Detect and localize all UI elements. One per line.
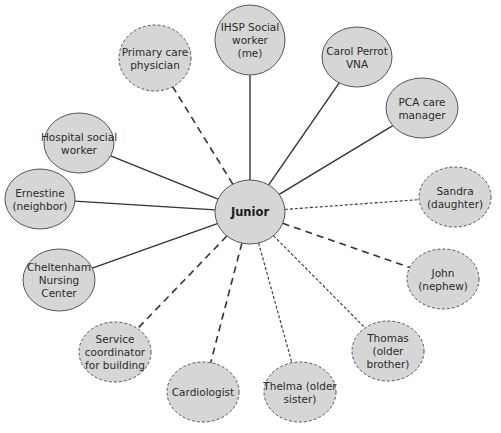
node-label-line: John — [431, 267, 455, 279]
node-hospital: Hospital socialworker — [41, 113, 117, 173]
node-label-line: PCA care — [399, 96, 446, 108]
center-node-label: Junior — [230, 205, 269, 219]
node-label-line: brother) — [367, 358, 410, 370]
node-label-line: Sandra — [436, 185, 473, 197]
node-label-line: (older — [373, 345, 405, 357]
node-label-line: Thomas — [366, 332, 409, 344]
node-ernestine: Ernestine(neighbor) — [5, 169, 75, 229]
link-primary-care — [173, 87, 233, 184]
node-pca: PCA caremanager — [386, 78, 458, 138]
node-label-line: (me) — [238, 47, 263, 59]
node-label-line: Service — [96, 333, 135, 345]
node-service-coordinator: Servicecoordinatorfor building — [79, 322, 151, 382]
link-cheltenham — [92, 224, 217, 269]
center-node-junior: Junior — [215, 180, 285, 244]
node-label-line: (neighbor) — [13, 200, 68, 212]
node-label-line: IHSP Social — [221, 21, 279, 33]
link-pca — [279, 126, 393, 195]
node-primary-care: Primary carephysician — [119, 25, 191, 91]
node-label-line: Ernestine — [15, 187, 65, 199]
node-label-line: manager — [398, 109, 446, 121]
node-label-line: Cheltenham — [27, 261, 91, 273]
node-label-line: (daughter) — [427, 198, 483, 210]
node-label-line: for building — [85, 359, 145, 371]
node-label-line: Primary care — [122, 46, 189, 58]
node-label-line: (nephew) — [418, 280, 468, 292]
node-thomas: Thomas(olderbrother) — [352, 321, 424, 381]
node-label-line: Hospital social — [41, 131, 117, 143]
node-cheltenham: CheltenhamNursingCenter — [23, 249, 95, 311]
node-label-line: Cardiologist — [172, 386, 234, 398]
node-label-line: worker — [61, 144, 97, 156]
node-label-line: coordinator — [85, 346, 146, 358]
node-label-line: worker — [232, 34, 268, 46]
link-hospital — [111, 156, 218, 199]
node-label-line: sister) — [284, 393, 317, 405]
node-label-line: Carol Perrot — [326, 45, 388, 57]
link-thomas — [274, 236, 366, 328]
node-john: John(nephew) — [407, 249, 479, 309]
node-cardiologist: Cardiologist — [167, 362, 239, 422]
node-label-line: Nursing — [39, 274, 80, 286]
link-cardiologist — [211, 243, 242, 363]
node-label-line: Center — [41, 287, 77, 299]
node-ihsp: IHSP Socialworker(me) — [215, 5, 285, 75]
node-label-line: physician — [130, 59, 180, 71]
link-john — [283, 223, 410, 267]
ecomap-diagram: IHSP Socialworker(me)Primary carephysici… — [0, 0, 501, 433]
link-thelma — [259, 243, 292, 363]
node-sandra: Sandra(daughter) — [419, 167, 491, 227]
node-carol: Carol PerrotVNA — [322, 27, 392, 87]
link-sandra — [285, 200, 419, 210]
link-ernestine — [75, 201, 215, 210]
node-thelma: Thelma (oldersister) — [262, 362, 337, 422]
link-carol — [269, 83, 339, 185]
node-label-line: Thelma (older — [262, 380, 337, 392]
link-service-coordinator — [138, 236, 227, 329]
node-label-line: VNA — [346, 58, 369, 70]
